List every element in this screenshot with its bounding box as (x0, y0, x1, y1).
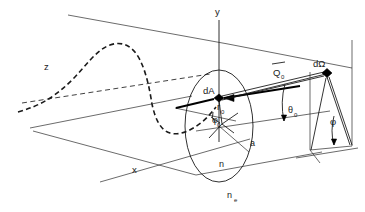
bottom-edge-right (196, 152, 322, 175)
r-zero-sub: 0 (221, 109, 225, 115)
circular-aperture: a n n e (185, 70, 255, 203)
detector-base-tick (310, 150, 320, 163)
detector-bottom-edge (310, 146, 352, 150)
top-edge-right (228, 44, 352, 68)
x-axis-label: x (132, 164, 137, 175)
radius-line (219, 126, 249, 152)
phi-arrowhead (331, 139, 336, 145)
y-axis-label: y (215, 6, 220, 17)
phi-label: φ (330, 116, 336, 127)
incident-beam-tail (176, 99, 214, 108)
z-axis: z (22, 61, 210, 103)
local-axis-c (209, 124, 222, 138)
wavevector-sub: 0 (281, 74, 285, 80)
incident-beam-arrow (176, 86, 300, 108)
index-ne-base: n (227, 190, 232, 200)
scattered-ray-3 (224, 74, 326, 99)
theta-zero-sub: 0 (294, 112, 298, 118)
x-axis-line (100, 139, 250, 182)
mid-left-line (30, 96, 192, 128)
area-element-label: dA (203, 85, 215, 96)
index-ne-label: n e (227, 190, 238, 202)
detector-plane (296, 40, 358, 163)
solid-angle-label: dΩ (313, 58, 325, 69)
area-element-group: dA r 0 φ 0 (203, 85, 238, 138)
r-zero-label: r 0 (217, 102, 225, 114)
z-axis-label: z (44, 61, 49, 72)
index-n-label: n (219, 159, 224, 169)
solid-angle-ray-3 (311, 78, 326, 150)
r-zero-base: r (217, 102, 220, 112)
figure-canvas: y x z a n n e dA r 0 (0, 0, 365, 212)
wavevector-label: Q 0 (272, 62, 285, 80)
scattered-ray-2 (222, 76, 324, 100)
top-edge-line (68, 15, 228, 44)
solid-angle-ray-1 (327, 77, 350, 145)
wavevector-overbar (272, 62, 285, 64)
detector-base-line (296, 148, 358, 158)
index-ne-sub: e (234, 197, 238, 203)
wavevector-base: Q (273, 67, 280, 78)
scattering-geometry-figure: y x z a n n e dA r 0 (0, 0, 365, 212)
solid-angle-group: dΩ φ (311, 58, 352, 150)
theta-zero-base: θ (288, 105, 293, 115)
bottom-edge-line (33, 131, 196, 175)
theta-zero-group: θ 0 (281, 84, 298, 121)
radius-label: a (250, 138, 255, 148)
